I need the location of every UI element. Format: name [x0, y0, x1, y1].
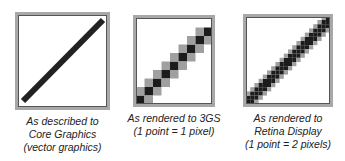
caption-3gs: As rendered to 3GS (1 point = 1 pixel) — [115, 112, 233, 138]
vector-graphics-box — [15, 12, 110, 110]
diagonal-line-vector — [18, 15, 107, 107]
diagonal-line-1x-pixels — [136, 18, 212, 104]
caption-core-graphics: As described to Core Graphics (vector gr… — [0, 115, 125, 154]
caption-retina: As rendered to Retina Display (1 point =… — [228, 112, 345, 151]
diagonal-line-2x-pixels — [246, 17, 330, 104]
retina-display-box — [243, 14, 333, 107]
pixel-3gs-box — [133, 15, 215, 107]
